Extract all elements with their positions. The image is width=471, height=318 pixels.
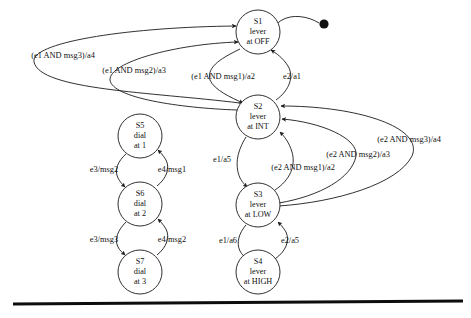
state-s2-line-0: S2 bbox=[254, 102, 263, 111]
state-s7-line-1: dial bbox=[134, 267, 147, 276]
state-s6-line-2: at 2 bbox=[134, 209, 146, 218]
state-s7-line-0: S7 bbox=[136, 257, 145, 266]
edge-s2-s3-e1a5 bbox=[237, 137, 247, 187]
edge-label-s3-s2-msg2: (e2 AND msg2)/a3 bbox=[326, 150, 390, 159]
edge-label-s4-s3-e2a5: e2/a5 bbox=[281, 236, 299, 245]
state-node-s3[interactable]: S3 lever at LOW bbox=[236, 183, 280, 227]
edge-label-s6-s7-e3msg3: e3/msg3 bbox=[90, 235, 118, 244]
state-node-s2[interactable]: S2 lever at INT bbox=[236, 95, 280, 139]
state-s5-line-1: dial bbox=[134, 131, 147, 140]
state-s6-line-0: S6 bbox=[136, 189, 145, 198]
state-node-s5[interactable]: S5 dial at 1 bbox=[118, 114, 162, 158]
state-node-s4[interactable]: S4 lever at HIGH bbox=[236, 250, 280, 294]
edge-label-s3-s2-msg3: (e2 AND msg3)/a4 bbox=[377, 135, 442, 144]
state-node-s7[interactable]: S7 dial at 3 bbox=[118, 250, 162, 294]
edge-label-s5-s6-e3msg2: e3/msg2 bbox=[90, 165, 118, 174]
edge-label-s3-s4-e1a6: e1/a6 bbox=[219, 236, 237, 245]
edge-s3-s2-msg2 bbox=[279, 119, 356, 203]
edge-label-s1-s2-msg1: (e1 AND msg1)/a2 bbox=[191, 72, 255, 81]
bottom-rule bbox=[13, 301, 463, 304]
state-s6-line-1: dial bbox=[134, 199, 147, 208]
state-machine-diagram: S1 lever at OFF S2 lever at INT S3 lever… bbox=[0, 0, 471, 318]
state-s4-line-1: lever bbox=[250, 267, 267, 276]
edge-initial-s1 bbox=[273, 16, 319, 28]
state-s3-line-0: S3 bbox=[254, 190, 263, 199]
state-node-s1[interactable]: S1 lever at OFF bbox=[236, 10, 280, 54]
state-s1-line-0: S1 bbox=[254, 17, 263, 26]
state-s2-line-1: lever bbox=[250, 112, 267, 121]
state-s2-line-2: at INT bbox=[247, 122, 269, 131]
state-node-s6[interactable]: S6 dial at 2 bbox=[118, 182, 162, 226]
state-s1-line-1: lever bbox=[250, 27, 267, 36]
initial-state-dot bbox=[319, 19, 328, 28]
edge-label-s2-s1-msg3: (e1 AND msg3)/a4 bbox=[31, 51, 96, 60]
edge-label-s6-s5-e4msg1: e4/msg1 bbox=[158, 165, 186, 174]
state-s3-line-2: at LOW bbox=[245, 210, 272, 219]
state-s7-line-2: at 3 bbox=[134, 277, 146, 286]
state-s5-line-0: S5 bbox=[136, 121, 145, 130]
nodes-layer: S1 lever at OFF S2 lever at INT S3 lever… bbox=[118, 10, 329, 294]
edge-s2-s1-msg3 bbox=[34, 26, 240, 103]
edge-label-s7-s6-e4msg2: e4/msg2 bbox=[158, 235, 186, 244]
diagram-canvas: S1 lever at OFF S2 lever at INT S3 lever… bbox=[0, 0, 471, 318]
state-s5-line-2: at 1 bbox=[134, 141, 146, 150]
state-s1-line-2: at OFF bbox=[247, 37, 270, 46]
edge-label-s2-s1-msg2: (e1 AND msg2)/a3 bbox=[102, 66, 166, 75]
state-s4-line-0: S4 bbox=[254, 257, 263, 266]
edge-label-s2-s1-e2a1: e2/a1 bbox=[283, 72, 301, 81]
state-s4-line-2: at HIGH bbox=[244, 277, 273, 286]
edge-label-s2-s3-e1a5: e1/a5 bbox=[213, 155, 231, 164]
state-s3-line-1: lever bbox=[250, 200, 267, 209]
edge-s3-s2-msg1 bbox=[275, 132, 293, 190]
edge-labels-layer: (e1 AND msg3)/a4 (e1 AND msg2)/a3 (e1 AN… bbox=[31, 51, 442, 245]
edge-label-s3-s2-msg1: (e2 AND msg1)/a2 bbox=[271, 163, 335, 172]
